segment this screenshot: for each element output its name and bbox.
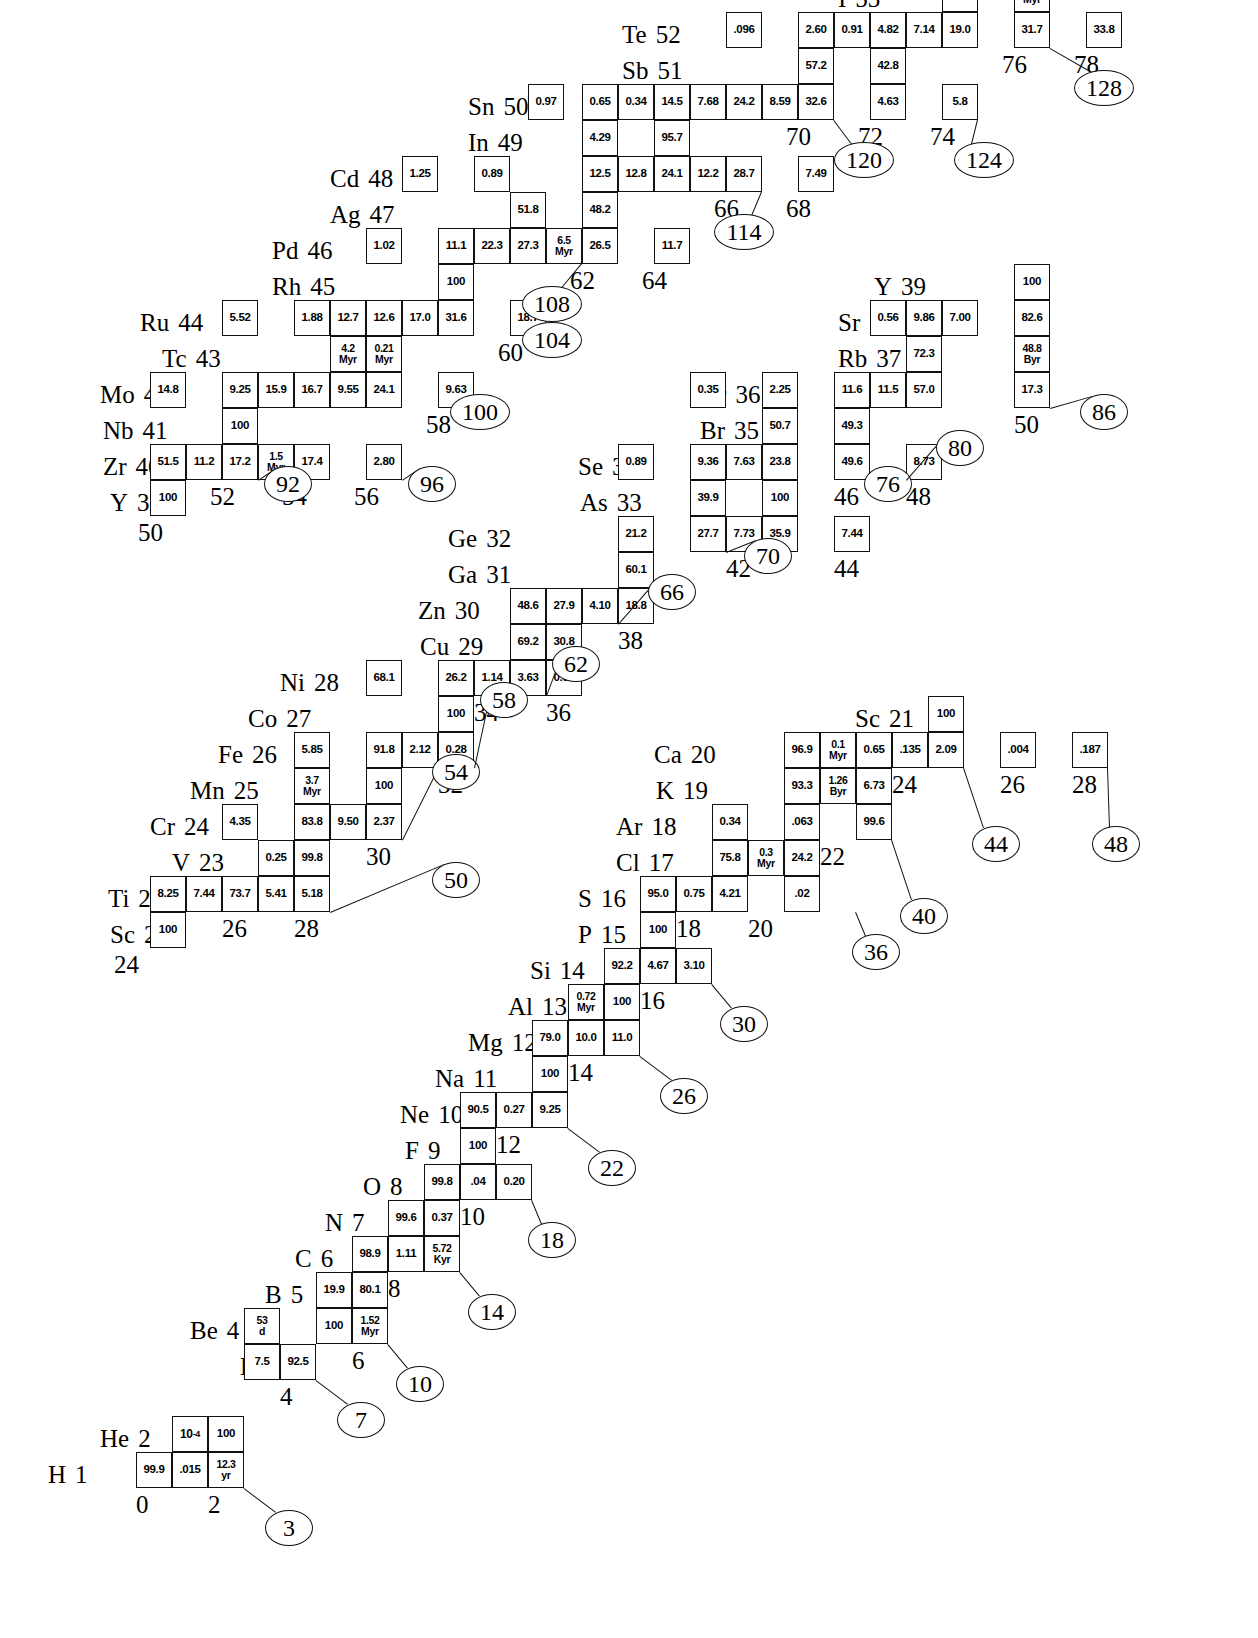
nuclide-cell[interactable]: 82.6 xyxy=(1014,300,1050,336)
nuclide-cell[interactable]: 6.5 Myr xyxy=(546,228,582,264)
nuclide-cell[interactable]: 12.3 yr xyxy=(208,1452,244,1488)
mass-number-callout[interactable]: 30 xyxy=(720,1006,768,1042)
nuclide-cell[interactable]: 4.82 xyxy=(870,12,906,48)
mass-number-callout[interactable]: 26 xyxy=(660,1078,708,1114)
nuclide-cell[interactable]: 5.8 xyxy=(942,84,978,120)
nuclide-cell[interactable]: 100 xyxy=(1014,264,1050,300)
nuclide-cell[interactable]: 99.8 xyxy=(424,1164,460,1200)
nuclide-cell[interactable]: 1.25 xyxy=(402,156,438,192)
nuclide-cell[interactable]: 100 xyxy=(640,912,676,948)
nuclide-cell[interactable]: 1.52 Myr xyxy=(352,1308,388,1344)
nuclide-cell[interactable]: 79.0 xyxy=(532,1020,568,1056)
nuclide-cell[interactable]: 100 xyxy=(150,912,186,948)
nuclide-cell[interactable]: 60.1 xyxy=(618,552,654,588)
nuclide-cell[interactable]: 4.21 xyxy=(712,876,748,912)
nuclide-cell[interactable]: 9.25 xyxy=(532,1092,568,1128)
nuclide-cell[interactable]: 99.8 xyxy=(294,840,330,876)
mass-number-callout[interactable]: 44 xyxy=(972,826,1020,862)
nuclide-cell[interactable]: 0.72 Myr xyxy=(568,984,604,1020)
nuclide-cell[interactable]: 7.5 xyxy=(244,1344,280,1380)
nuclide-cell[interactable]: 1.02 xyxy=(366,228,402,264)
mass-number-callout[interactable]: 18 xyxy=(528,1222,576,1258)
nuclide-cell[interactable]: 16.7 xyxy=(294,372,330,408)
nuclide-cell[interactable]: 95.7 xyxy=(654,120,690,156)
nuclide-cell[interactable]: 0.89 xyxy=(474,156,510,192)
mass-number-callout[interactable]: 50 xyxy=(432,862,480,898)
nuclide-cell[interactable]: 90.5 xyxy=(460,1092,496,1128)
nuclide-cell[interactable]: 100 xyxy=(928,696,964,732)
mass-number-callout[interactable]: 62 xyxy=(552,646,600,682)
nuclide-cell[interactable]: 5.52 xyxy=(222,300,258,336)
nuclide-cell[interactable]: 0.97 xyxy=(528,84,564,120)
nuclide-cell[interactable]: 3.10 xyxy=(676,948,712,984)
nuclide-cell[interactable]: 39.9 xyxy=(690,480,726,516)
nuclide-cell[interactable]: 2.37 xyxy=(366,804,402,840)
nuclide-cell[interactable]: 100 xyxy=(942,0,978,12)
nuclide-cell[interactable]: 9.25 xyxy=(222,372,258,408)
nuclide-cell[interactable]: 2.12 xyxy=(402,732,438,768)
nuclide-cell[interactable]: 0.65 xyxy=(856,732,892,768)
nuclide-cell[interactable]: 2.09 xyxy=(928,732,964,768)
nuclide-cell[interactable]: 11.0 xyxy=(604,1020,640,1056)
nuclide-cell[interactable]: 4.63 xyxy=(870,84,906,120)
mass-number-callout[interactable]: 86 xyxy=(1080,394,1128,430)
nuclide-cell[interactable]: 99.9 xyxy=(136,1452,172,1488)
mass-number-callout[interactable]: 70 xyxy=(744,538,792,574)
nuclide-cell[interactable]: 0.1 Myr xyxy=(820,732,856,768)
nuclide-cell[interactable]: 100 xyxy=(150,480,186,516)
nuclide-cell[interactable]: 19.9 xyxy=(316,1272,352,1308)
nuclide-cell[interactable]: 17.0 xyxy=(402,300,438,336)
nuclide-cell[interactable]: 12.7 xyxy=(330,300,366,336)
nuclide-cell[interactable]: 42.8 xyxy=(870,48,906,84)
nuclide-cell[interactable]: 4.10 xyxy=(582,588,618,624)
nuclide-cell[interactable]: 100 xyxy=(208,1416,244,1452)
nuclide-cell[interactable]: 100 xyxy=(532,1056,568,1092)
nuclide-cell[interactable]: .063 xyxy=(784,804,820,840)
nuclide-cell[interactable]: 68.1 xyxy=(366,660,402,696)
nuclide-cell[interactable]: 4.29 xyxy=(582,120,618,156)
mass-number-callout[interactable]: 108 xyxy=(522,286,582,322)
mass-number-callout[interactable]: 114 xyxy=(714,214,774,250)
nuclide-cell[interactable]: 0.34 xyxy=(712,804,748,840)
nuclide-cell[interactable]: 100 xyxy=(366,768,402,804)
nuclide-cell[interactable]: 2.25 xyxy=(762,372,798,408)
nuclide-cell[interactable]: 0.27 xyxy=(496,1092,532,1128)
nuclide-cell[interactable]: 33.8 xyxy=(1086,12,1122,48)
nuclide-cell[interactable]: 5.85 xyxy=(294,732,330,768)
nuclide-cell[interactable]: 57.0 xyxy=(906,372,942,408)
nuclide-cell[interactable]: 15.9 xyxy=(258,372,294,408)
nuclide-cell[interactable]: 24.2 xyxy=(784,840,820,876)
nuclide-cell[interactable]: 10-4 xyxy=(172,1416,208,1452)
mass-number-callout[interactable]: 92 xyxy=(264,466,312,502)
nuclide-cell[interactable]: 31.6 xyxy=(438,300,474,336)
nuclide-cell[interactable]: 72.3 xyxy=(906,336,942,372)
nuclide-cell[interactable]: 12.8 xyxy=(618,156,654,192)
nuclide-cell[interactable]: 100 xyxy=(438,264,474,300)
nuclide-cell[interactable]: 99.6 xyxy=(856,804,892,840)
nuclide-cell[interactable]: 57.2 xyxy=(798,48,834,84)
nuclide-cell[interactable]: 22.3 xyxy=(474,228,510,264)
nuclide-cell[interactable]: 1.26 Byr xyxy=(820,768,856,804)
nuclide-cell[interactable]: 1.11 xyxy=(388,1236,424,1272)
nuclide-cell[interactable]: 50.7 xyxy=(762,408,798,444)
mass-number-callout[interactable]: 10 xyxy=(396,1366,444,1402)
nuclide-cell[interactable]: 49.6 xyxy=(834,444,870,480)
nuclide-cell[interactable]: 100 xyxy=(438,696,474,732)
nuclide-cell[interactable]: .015 xyxy=(172,1452,208,1488)
nuclide-cell[interactable]: 49.3 xyxy=(834,408,870,444)
nuclide-cell[interactable]: 0.89 xyxy=(618,444,654,480)
nuclide-cell[interactable]: 7.14 xyxy=(906,12,942,48)
nuclide-cell[interactable]: 6.73 xyxy=(856,768,892,804)
nuclide-cell[interactable]: 0.3 Myr xyxy=(748,840,784,876)
nuclide-cell[interactable]: 24.1 xyxy=(366,372,402,408)
nuclide-cell[interactable]: 0.65 xyxy=(582,84,618,120)
nuclide-cell[interactable]: 99.6 xyxy=(388,1200,424,1236)
mass-number-callout[interactable]: 128 xyxy=(1074,70,1134,106)
nuclide-cell[interactable]: 27.3 xyxy=(510,228,546,264)
nuclide-cell[interactable]: 24.2 xyxy=(726,84,762,120)
nuclide-cell[interactable]: 0.75 xyxy=(676,876,712,912)
nuclide-cell[interactable]: 12.5 xyxy=(582,156,618,192)
nuclide-cell[interactable]: 75.8 xyxy=(712,840,748,876)
nuclide-cell[interactable]: 83.8 xyxy=(294,804,330,840)
nuclide-cell[interactable]: 48.8 Byr xyxy=(1014,336,1050,372)
